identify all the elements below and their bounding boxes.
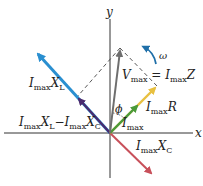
omega-label: ω [159,50,167,61]
phasor-vmax [110,51,120,133]
y-axis-label: y [105,5,113,19]
xc-label: ImaxXC [135,139,172,155]
phi-label: ϕ [115,103,123,116]
r-label: ImaxR [145,100,177,116]
vmax-label: Vmax = ImaxZ [122,68,196,84]
phasor-diagram: x y ϕ ω Vmax = ImaxZ ImaxXL ImaxXL−ImaxX… [0,0,203,186]
xl-minus-xc-label: ImaxXL−ImaxXC [18,115,101,131]
i-label: Imax [121,116,144,132]
x-axis-label: x [195,126,202,140]
omega-rotation-arrow [144,47,156,64]
